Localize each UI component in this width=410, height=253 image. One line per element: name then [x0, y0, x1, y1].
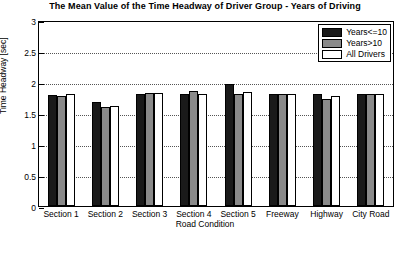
bar-group: [216, 22, 260, 206]
bar: [101, 107, 110, 206]
y-tick-label: 0.5: [24, 172, 36, 182]
bar: [154, 93, 163, 206]
legend-label: Years<=10: [346, 27, 387, 37]
bar-group: [39, 22, 83, 206]
bar: [243, 92, 252, 206]
plot-area: 00.511.522.53 Section 1Section 2Section …: [38, 21, 394, 207]
legend-item: Years>10: [322, 38, 387, 48]
bar: [198, 94, 207, 206]
bar: [66, 94, 75, 206]
y-tick-label: 0: [31, 203, 36, 213]
x-axis-label: Road Condition: [0, 219, 410, 229]
legend-swatch: [322, 39, 342, 48]
bar: [180, 94, 189, 206]
legend-item: Years<=10: [322, 27, 387, 37]
bar: [110, 106, 119, 206]
x-tick-label: Section 1: [43, 209, 78, 219]
bar: [278, 94, 287, 206]
x-tick-label: Section 2: [88, 209, 123, 219]
y-tick-label: 1.5: [24, 110, 36, 120]
x-tick-label: Section 3: [132, 209, 167, 219]
x-tick-label: Section 4: [176, 209, 211, 219]
legend-label: All Drivers: [346, 49, 385, 59]
x-tick-label: Highway: [310, 209, 343, 219]
bar-group: [172, 22, 216, 206]
bar: [57, 96, 66, 206]
bar: [269, 94, 278, 206]
y-tick-label: 2: [31, 79, 36, 89]
y-tick-label: 3: [31, 17, 36, 27]
chart-title: The Mean Value of the Time Headway of Dr…: [0, 1, 410, 11]
bar: [136, 94, 145, 206]
bar: [92, 102, 101, 206]
bar: [322, 99, 331, 206]
y-tick-label: 2.5: [24, 48, 36, 58]
bar-group: [260, 22, 304, 206]
bar: [225, 84, 234, 206]
bar: [48, 95, 57, 206]
bar-group: [128, 22, 172, 206]
y-axis-label: Time Headway [sec]: [0, 37, 8, 114]
legend-swatch: [322, 50, 342, 59]
bar: [189, 91, 198, 206]
legend: Years<=10Years>10All Drivers: [318, 24, 391, 62]
bar: [313, 94, 322, 206]
bar: [145, 93, 154, 206]
bar: [287, 94, 296, 206]
chart-figure: The Mean Value of the Time Headway of Dr…: [0, 0, 410, 253]
x-tick-label: Section 5: [220, 209, 255, 219]
bar: [234, 94, 243, 206]
x-tick-label: City Road: [352, 209, 389, 219]
x-tick-label: Freeway: [266, 209, 299, 219]
legend-item: All Drivers: [322, 49, 387, 59]
bar: [375, 94, 384, 206]
y-tick-label: 1: [31, 141, 36, 151]
bar: [331, 96, 340, 206]
bar: [357, 94, 366, 206]
legend-swatch: [322, 28, 342, 37]
bar-group: [83, 22, 127, 206]
legend-label: Years>10: [346, 38, 382, 48]
bar: [366, 94, 375, 206]
